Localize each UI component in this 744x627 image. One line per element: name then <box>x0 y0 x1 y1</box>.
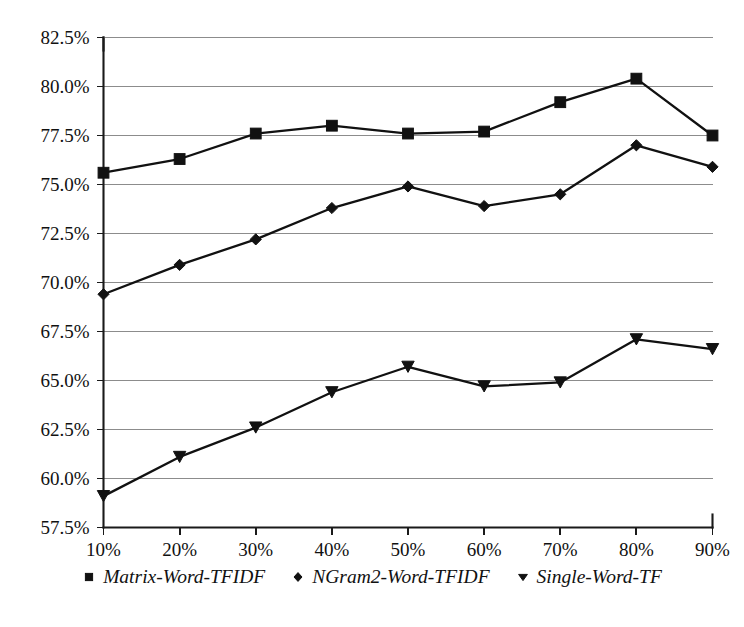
triangle-down-marker-icon <box>516 570 530 584</box>
series-line <box>104 79 713 173</box>
y-tick-label: 77.5% <box>40 125 89 146</box>
series-diamond <box>98 140 718 300</box>
data-point-marker <box>403 128 414 139</box>
legend-label: Matrix-Word-TFIDF <box>103 566 265 588</box>
chart-legend: Matrix-Word-TFIDFNGram2-Word-TFIDFSingle… <box>0 566 744 588</box>
y-tick-label: 80.0% <box>40 76 89 97</box>
y-tick-label: 75.0% <box>40 174 89 195</box>
x-tick-label: 70% <box>543 539 578 560</box>
x-tick-label: 20% <box>162 539 197 560</box>
legend-label: NGram2-Word-TFIDF <box>312 566 489 588</box>
data-point-marker <box>631 140 642 151</box>
data-series-group <box>97 73 718 501</box>
data-point-marker <box>555 189 566 200</box>
data-point-marker <box>98 167 109 178</box>
y-tick-label: 72.5% <box>40 223 89 244</box>
data-point-marker <box>173 451 185 462</box>
x-tick-label: 50% <box>391 539 426 560</box>
line-chart: 57.5%60.0%62.5%65.0%67.5%70.0%72.5%75.0%… <box>0 0 744 627</box>
data-point-marker <box>707 130 718 141</box>
series-square <box>98 73 718 178</box>
x-tick-label: 40% <box>314 539 349 560</box>
series-triangle-down <box>97 334 718 502</box>
chart-figure: 57.5%60.0%62.5%65.0%67.5%70.0%72.5%75.0%… <box>0 0 744 627</box>
data-point-marker <box>98 289 109 300</box>
y-axis-tick-labels: 57.5%60.0%62.5%65.0%67.5%70.0%72.5%75.0%… <box>40 27 89 538</box>
legend-label: Single-Word-TF <box>537 566 662 588</box>
x-tick-label: 10% <box>86 539 121 560</box>
legend-marker-shape <box>294 573 302 582</box>
data-point-marker <box>174 259 185 270</box>
data-point-marker <box>174 154 185 165</box>
square-marker-icon <box>82 570 96 584</box>
diamond-marker-icon <box>291 570 305 584</box>
y-tick-label: 62.5% <box>40 419 89 440</box>
data-point-marker <box>402 181 413 192</box>
legend-entry: Matrix-Word-TFIDF <box>82 566 265 588</box>
y-tick-label: 70.0% <box>40 272 89 293</box>
legend-marker-shape <box>86 573 93 580</box>
data-point-marker <box>479 200 490 211</box>
legend-entry: NGram2-Word-TFIDF <box>291 566 489 588</box>
x-tick-label: 80% <box>619 539 654 560</box>
y-tick-label: 57.5% <box>40 517 89 538</box>
data-point-marker <box>250 128 261 139</box>
x-tick-label: 60% <box>467 539 502 560</box>
y-tick-label: 60.0% <box>40 468 89 489</box>
x-tick-label: 30% <box>238 539 273 560</box>
data-point-marker <box>555 97 566 108</box>
legend-entry: Single-Word-TF <box>516 566 662 588</box>
data-point-marker <box>479 126 490 137</box>
series-line <box>104 145 713 294</box>
x-tick-label: 90% <box>695 539 730 560</box>
x-axis-tick-labels: 10%20%30%40%50%60%70%80%90% <box>86 539 730 560</box>
data-point-marker <box>326 387 338 398</box>
data-point-marker <box>707 161 718 172</box>
data-point-marker <box>326 120 337 131</box>
data-point-marker <box>631 73 642 84</box>
grid-lines <box>104 38 713 479</box>
data-point-marker <box>250 234 261 245</box>
y-tick-label: 82.5% <box>40 27 89 48</box>
y-tick-label: 65.0% <box>40 370 89 391</box>
y-tick-label: 67.5% <box>40 321 89 342</box>
data-point-marker <box>250 422 262 433</box>
legend-marker-shape <box>518 574 527 580</box>
data-point-marker <box>326 202 337 213</box>
data-point-marker <box>97 491 109 502</box>
